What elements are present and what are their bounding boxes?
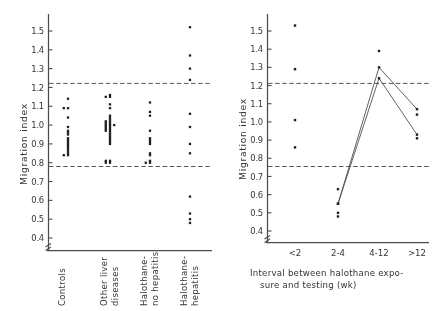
left-y-tick-labels: 1.51.41.31.21.11.00.90.80.70.60.50.4	[31, 26, 44, 243]
left-y-axis-title: Migration index	[18, 103, 29, 185]
y-tick-label: 0.8	[31, 158, 44, 168]
data-point	[67, 154, 69, 156]
data-point	[149, 111, 151, 113]
data-point	[67, 98, 69, 100]
left-panel-svg: 1.51.41.31.21.11.00.90.80.70.60.50.4 Con…	[0, 0, 216, 311]
data-point	[416, 113, 418, 115]
data-point	[337, 215, 339, 217]
category-label: Halothane-	[139, 256, 149, 306]
y-tick-label: 0.6	[31, 195, 44, 205]
data-point	[378, 66, 380, 68]
data-point	[294, 146, 296, 148]
data-point	[67, 107, 69, 109]
data-point	[63, 107, 65, 109]
y-tick-label: 1.5	[250, 26, 263, 36]
y-tick-label: 1.1	[250, 99, 263, 109]
y-tick-label: 1.3	[31, 64, 44, 74]
data-point	[63, 154, 65, 156]
y-tick-label: 1.3	[250, 62, 263, 72]
migration-index-figure: 1.51.41.31.21.11.00.90.80.70.60.50.4 Con…	[0, 0, 433, 311]
x-tick-label: <2	[289, 248, 302, 258]
data-point	[145, 162, 147, 164]
data-point	[294, 24, 296, 26]
data-point	[149, 154, 151, 156]
data-point	[113, 124, 115, 126]
data-point	[149, 143, 151, 145]
y-tick-label: 1.5	[31, 26, 44, 36]
data-point	[67, 116, 69, 118]
data-point	[337, 188, 339, 190]
data-point	[189, 54, 191, 56]
right-caption-line-1: Interval between halothane expo-	[250, 268, 404, 278]
y-tick-label: 1.2	[250, 81, 263, 91]
data-point	[416, 137, 418, 139]
y-tick-label: 0.9	[31, 139, 44, 149]
y-tick-label: 0.5	[250, 208, 263, 218]
right-x-tick-labels: <22-44-12>12	[289, 248, 426, 258]
y-tick-label: 1.0	[31, 120, 44, 130]
data-point	[149, 115, 151, 117]
data-point	[189, 26, 191, 28]
connector-line	[338, 78, 417, 203]
category-label: no hepatitis	[150, 251, 160, 306]
data-point	[189, 79, 191, 81]
right-y-tick-labels: 1.51.41.31.21.11.00.90.80.70.60.50.4	[250, 26, 263, 236]
left-scatter-panel: 1.51.41.31.21.11.00.90.80.70.60.50.4 Con…	[0, 0, 216, 311]
data-point	[337, 203, 339, 205]
data-point	[416, 133, 418, 135]
y-tick-label: 0.5	[31, 214, 44, 224]
data-point	[189, 67, 191, 69]
y-tick-label: 1.2	[31, 83, 44, 93]
right-caption-line-2: sure and testing (wk)	[260, 280, 357, 290]
data-point	[189, 212, 191, 214]
data-point	[109, 96, 111, 98]
y-tick-label: 0.9	[250, 135, 263, 145]
data-point	[149, 101, 151, 103]
category-label: Controls	[57, 268, 67, 306]
data-point	[109, 107, 111, 109]
category-label: diseases	[110, 266, 120, 306]
data-point	[105, 130, 107, 132]
data-point	[189, 222, 191, 224]
data-point	[67, 126, 69, 128]
y-tick-label: 1.1	[31, 101, 44, 111]
y-tick-label: 0.8	[250, 153, 263, 163]
y-tick-label: 0.4	[31, 233, 44, 243]
data-point	[105, 162, 107, 164]
y-tick-label: 0.7	[31, 177, 44, 187]
left-data-points	[63, 26, 192, 224]
y-tick-label: 0.6	[250, 190, 263, 200]
right-panel-svg: 1.51.41.31.21.11.00.90.80.70.60.50.4 <22…	[216, 0, 433, 311]
connector-line	[338, 67, 417, 203]
data-point	[149, 130, 151, 132]
data-point	[149, 162, 151, 164]
y-tick-label: 1.4	[31, 45, 44, 55]
data-point	[67, 133, 69, 135]
data-point	[294, 119, 296, 121]
data-point	[189, 113, 191, 115]
data-point	[189, 195, 191, 197]
data-point	[337, 212, 339, 214]
data-point	[109, 103, 111, 105]
data-point	[105, 96, 107, 98]
x-tick-label: >12	[408, 248, 426, 258]
left-category-labels: ControlsOther liverdiseasesHalothane-no …	[57, 251, 200, 306]
data-point	[109, 143, 111, 145]
data-point	[378, 77, 380, 79]
x-tick-label: 4-12	[369, 248, 389, 258]
data-point	[378, 50, 380, 52]
x-tick-label: 2-4	[331, 248, 345, 258]
category-label: hepatitis	[190, 266, 200, 306]
data-point	[294, 68, 296, 70]
data-point	[189, 143, 191, 145]
y-tick-label: 0.4	[250, 226, 263, 236]
data-point	[189, 218, 191, 220]
data-point	[416, 108, 418, 110]
data-point	[189, 152, 191, 154]
right-y-axis-title: Migration index	[237, 98, 248, 180]
right-connector-lines	[338, 67, 417, 203]
y-tick-label: 1.0	[250, 117, 263, 127]
category-label: Other liver	[99, 257, 109, 306]
y-tick-label: 0.7	[250, 172, 263, 182]
category-label: Halothane-	[179, 256, 189, 306]
